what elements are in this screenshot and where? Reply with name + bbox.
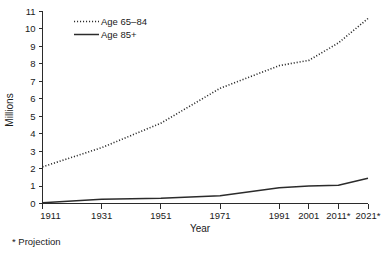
- footnote-projection: * Projection: [12, 236, 61, 247]
- x-axis-title: Year: [190, 223, 211, 234]
- y-tick-label: 3: [30, 146, 35, 157]
- y-tick-label: 8: [30, 58, 35, 69]
- y-tick-label: 5: [30, 111, 35, 122]
- x-tick-label: 2001: [298, 210, 319, 221]
- y-tick-label: 7: [30, 76, 35, 87]
- series-line-age-85: [43, 178, 369, 202]
- y-axis-ticks: 01234567891011: [25, 6, 43, 209]
- chart-container: 01234567891011 1911193119511971199120012…: [0, 0, 385, 257]
- legend-label-age-65-84: Age 65–84: [101, 16, 147, 27]
- y-tick-label: 9: [30, 41, 35, 52]
- y-tick-label: 0: [30, 198, 35, 209]
- x-tick-label: 1911: [40, 210, 60, 221]
- y-tick-label: 6: [30, 93, 35, 104]
- x-tick-label: 1931: [91, 210, 112, 221]
- y-tick-label: 10: [25, 23, 36, 34]
- y-tick-label: 4: [30, 128, 35, 139]
- y-tick-label: 11: [26, 6, 36, 17]
- x-tick-label: 2011*: [326, 210, 350, 221]
- legend: Age 65–84 Age 85+: [74, 16, 147, 40]
- series-line-age-65-84: [43, 18, 369, 166]
- y-tick-label: 2: [30, 163, 35, 174]
- series-group: [43, 18, 369, 202]
- x-tick-label: 1951: [150, 210, 171, 221]
- x-tick-label: 1991: [269, 210, 290, 221]
- x-axis-ticks: 1911193119511971199120012011*2021*: [40, 204, 380, 221]
- y-axis-title: Millions: [4, 93, 15, 126]
- x-tick-label: 1971: [209, 210, 230, 221]
- line-chart: 01234567891011 1911193119511971199120012…: [0, 0, 385, 257]
- legend-item-age-65-84: Age 65–84: [74, 16, 147, 27]
- y-tick-label: 1: [30, 180, 35, 191]
- legend-item-age-85-plus: Age 85+: [74, 29, 137, 40]
- x-tick-label: 2021*: [356, 210, 381, 221]
- legend-label-age-85-plus: Age 85+: [101, 29, 137, 40]
